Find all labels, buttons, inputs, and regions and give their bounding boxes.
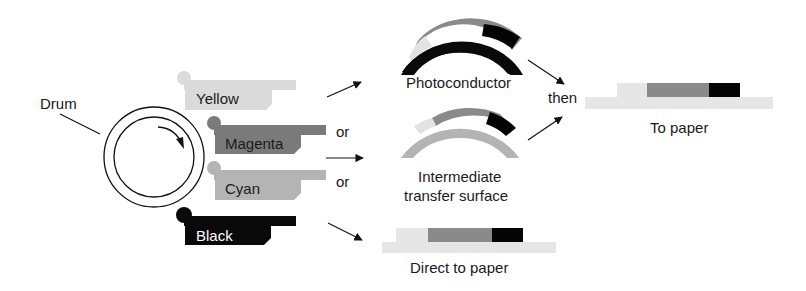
drum-leader-line	[60, 114, 100, 134]
intermediate-label-line2: transfer surface	[404, 187, 508, 204]
photoconductor-label: Photoconductor	[406, 74, 511, 91]
toner-label-black: Black	[196, 227, 233, 244]
direct-to-paper-label: Direct to paper	[410, 259, 508, 276]
toner-transfer-diagram: Drum Yellow Magenta Cyan Black or or	[0, 0, 806, 291]
arrow-intermediate-to-paper	[528, 117, 562, 140]
or-label-2: or	[336, 173, 349, 190]
toner-label-magenta: Magenta	[225, 135, 284, 152]
toner-label-cyan: Cyan	[225, 180, 260, 197]
toner-unit-magenta: Magenta	[207, 116, 326, 154]
arrow-to-photoconductor	[327, 82, 361, 97]
drum-icon	[104, 107, 204, 207]
toner-unit-yellow: Yellow	[177, 71, 296, 110]
intermediate-label-line1: Intermediate	[418, 168, 501, 185]
toner-unit-cyan: Cyan	[207, 161, 326, 200]
to-paper-strip	[585, 83, 773, 109]
direct-to-paper-strip	[382, 228, 556, 253]
or-label-1: or	[336, 123, 349, 140]
drum-label: Drum	[40, 95, 77, 112]
photoconductor-surface	[401, 18, 523, 75]
to-paper-label: To paper	[650, 119, 708, 136]
arrow-photoconductor-to-paper	[528, 60, 564, 84]
toner-label-yellow: Yellow	[196, 90, 239, 107]
intermediate-transfer-surface	[401, 108, 519, 158]
arrow-to-direct	[328, 223, 362, 240]
toner-unit-black: Black	[176, 207, 296, 245]
then-label: then	[548, 89, 577, 106]
